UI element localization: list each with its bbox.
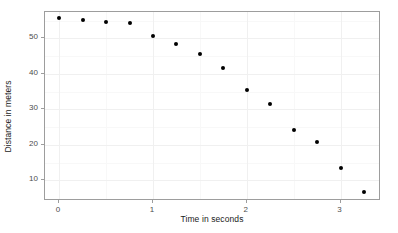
- gridline-minor-vertical: [294, 12, 295, 199]
- x-axis-tick-mark: [152, 200, 153, 203]
- y-axis-tick-mark: [41, 108, 44, 109]
- data-point: [128, 21, 132, 25]
- data-point: [362, 190, 366, 194]
- data-point: [221, 66, 225, 70]
- x-axis-tick-label: 1: [137, 205, 167, 214]
- gridline-major-horizontal: [45, 180, 379, 181]
- y-axis-tick-label: 50: [0, 32, 38, 41]
- y-axis-tick-mark: [41, 37, 44, 38]
- gridline-minor-horizontal: [45, 127, 379, 128]
- x-axis-tick-mark: [340, 200, 341, 203]
- gridline-minor-vertical: [200, 12, 201, 199]
- x-axis-tick-mark: [58, 200, 59, 203]
- gridline-major-vertical: [153, 12, 154, 199]
- x-axis-tick-label: 3: [325, 205, 355, 214]
- y-axis-tick-label: 20: [0, 139, 38, 148]
- gridline-major-horizontal: [45, 74, 379, 75]
- data-point: [268, 102, 272, 106]
- data-point: [245, 88, 249, 92]
- x-axis-tick-label: 0: [43, 205, 73, 214]
- gridline-major-vertical: [247, 12, 248, 199]
- y-axis-tick-label: 10: [0, 174, 38, 183]
- data-point: [339, 166, 343, 170]
- x-axis-tick-label: 2: [231, 205, 261, 214]
- gridline-major-vertical: [59, 12, 60, 199]
- gridline-minor-horizontal: [45, 92, 379, 93]
- y-axis-tick-label: 40: [0, 68, 38, 77]
- data-point: [174, 42, 178, 46]
- y-axis-tick-mark: [41, 179, 44, 180]
- y-axis-tick-mark: [41, 144, 44, 145]
- gridline-major-vertical: [341, 12, 342, 199]
- data-point: [292, 128, 296, 132]
- gridline-minor-horizontal: [45, 56, 379, 57]
- gridline-minor-horizontal: [45, 21, 379, 22]
- gridline-major-horizontal: [45, 145, 379, 146]
- plot-panel: [44, 11, 380, 200]
- y-axis-tick-mark: [41, 73, 44, 74]
- data-point: [198, 52, 202, 56]
- data-point: [81, 18, 85, 22]
- gridline-major-horizontal: [45, 109, 379, 110]
- y-axis-tick-label: 30: [0, 103, 38, 112]
- gridline-major-horizontal: [45, 38, 379, 39]
- gridline-minor-vertical: [106, 12, 107, 199]
- x-axis-title: Time in seconds: [44, 214, 380, 224]
- data-point: [57, 16, 61, 20]
- gridline-minor-horizontal: [45, 163, 379, 164]
- scatter-plot-figure: Distance in meters 10203040500123 Time i…: [0, 0, 398, 233]
- data-point: [104, 20, 108, 24]
- data-point: [315, 140, 319, 144]
- x-axis-tick-mark: [246, 200, 247, 203]
